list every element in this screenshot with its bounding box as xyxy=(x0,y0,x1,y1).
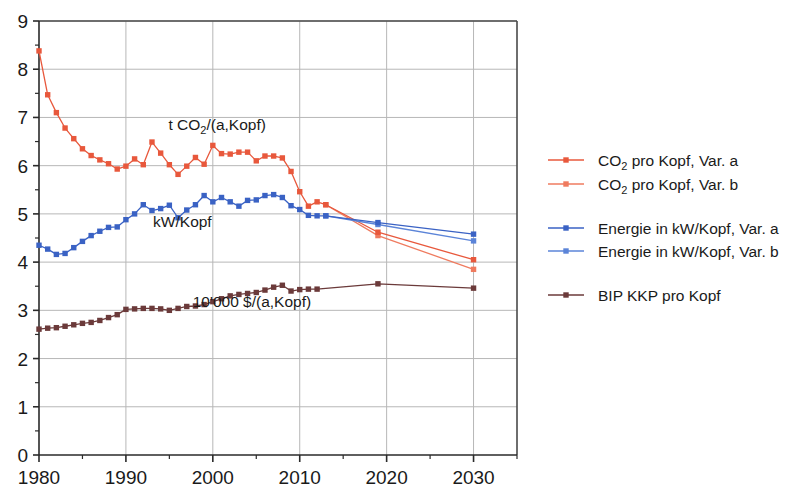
legend-label: BIP KKP pro Kopf xyxy=(598,287,721,304)
data-point-marker xyxy=(45,325,50,330)
series-line xyxy=(39,51,474,260)
data-point-marker xyxy=(280,195,285,200)
data-point-marker xyxy=(54,325,59,330)
data-point-marker xyxy=(236,149,241,154)
data-point-marker xyxy=(149,306,154,311)
data-point-marker xyxy=(36,48,41,53)
data-point-marker xyxy=(375,281,380,286)
legend-energie-var-a[interactable]: Energie in kW/Kopf, Var. a xyxy=(544,215,794,237)
data-point-marker xyxy=(97,318,102,323)
data-point-marker xyxy=(167,203,172,208)
y-axis: 0123456789 xyxy=(17,11,39,466)
data-point-marker xyxy=(210,199,215,204)
data-point-marker xyxy=(288,169,293,174)
data-point-marker xyxy=(323,213,328,218)
legend-marker-swatch xyxy=(563,181,568,186)
data-point-marker xyxy=(297,287,302,292)
data-point-marker xyxy=(132,156,137,161)
y-tick-label: 8 xyxy=(17,59,28,80)
data-point-marker xyxy=(88,320,93,325)
data-point-marker xyxy=(314,199,319,204)
y-tick-label: 4 xyxy=(17,252,28,273)
data-point-marker xyxy=(97,157,102,162)
x-tick-label: 2030 xyxy=(452,467,494,488)
legend-co2-var-a[interactable]: CO2 pro Kopf, Var. a xyxy=(544,147,794,172)
legend-bip[interactable]: BIP KKP pro Kopf xyxy=(544,282,794,304)
data-point-marker xyxy=(141,162,146,167)
data-point-marker xyxy=(271,192,276,197)
co2-annotation: t CO2/(a,Kopf) xyxy=(168,116,265,136)
data-point-marker xyxy=(471,231,476,236)
data-point-marker xyxy=(123,217,128,222)
data-point-marker xyxy=(106,225,111,230)
data-point-marker xyxy=(375,230,380,235)
y-tick-label: 2 xyxy=(17,349,28,370)
data-point-marker xyxy=(71,322,76,327)
data-point-marker xyxy=(71,136,76,141)
data-point-marker xyxy=(36,326,41,331)
data-point-marker xyxy=(149,208,154,213)
legend-marker-swatch xyxy=(563,157,568,162)
data-point-marker xyxy=(210,143,215,148)
data-point-marker xyxy=(115,224,120,229)
data-point-marker xyxy=(262,193,267,198)
legend-energie-var-b[interactable]: Energie in kW/Kopf, Var. b xyxy=(544,238,794,260)
data-point-marker xyxy=(175,306,180,311)
series-line xyxy=(326,216,474,241)
y-tick-label: 5 xyxy=(17,204,28,225)
data-point-marker xyxy=(45,246,50,251)
plot-annotations: t CO2/(a,Kopf)kW/Kopf10'000 $/(a,Kopf) xyxy=(153,116,311,311)
y-tick-label: 6 xyxy=(17,156,28,177)
energie-annotation: kW/Kopf xyxy=(153,213,212,230)
data-point-marker xyxy=(306,213,311,218)
chart-container: 0123456789198019902000201020202030t CO2/… xyxy=(0,0,811,489)
data-point-marker xyxy=(158,150,163,155)
data-point-marker xyxy=(54,110,59,115)
data-point-marker xyxy=(132,306,137,311)
data-point-marker xyxy=(106,161,111,166)
data-point-marker xyxy=(80,239,85,244)
data-point-marker xyxy=(123,307,128,312)
data-point-marker xyxy=(45,92,50,97)
y-tick-label: 7 xyxy=(17,107,28,128)
data-point-marker xyxy=(219,195,224,200)
data-point-marker xyxy=(158,306,163,311)
data-point-marker xyxy=(297,189,302,194)
y-tick-label: 9 xyxy=(17,11,28,32)
y-tick-label: 3 xyxy=(17,300,28,321)
series-layer xyxy=(36,48,476,332)
data-point-marker xyxy=(236,203,241,208)
bip-annotation: 10'000 $/(a,Kopf) xyxy=(193,293,311,310)
data-point-marker xyxy=(280,155,285,160)
plot-frame xyxy=(39,21,517,455)
data-point-marker xyxy=(97,229,102,234)
legend-co2-var-b[interactable]: CO2 pro Kopf, Var. b xyxy=(544,171,794,196)
data-point-marker xyxy=(193,155,198,160)
data-point-marker xyxy=(219,151,224,156)
data-point-marker xyxy=(123,163,128,168)
x-tick-label: 2020 xyxy=(365,467,407,488)
data-point-marker xyxy=(201,193,206,198)
data-point-marker xyxy=(471,257,476,262)
legend-marker-swatch xyxy=(563,225,568,230)
data-point-marker xyxy=(80,321,85,326)
data-point-marker xyxy=(254,158,259,163)
data-point-marker xyxy=(262,153,267,158)
x-tick-label: 2000 xyxy=(192,467,234,488)
data-point-marker xyxy=(254,197,259,202)
legend-marker-swatch xyxy=(563,292,568,297)
data-point-marker xyxy=(201,162,206,167)
data-point-marker xyxy=(62,324,67,329)
legend: CO2 pro Kopf, Var. aCO2 pro Kopf, Var. b… xyxy=(544,147,794,304)
data-point-marker xyxy=(141,202,146,207)
data-point-marker xyxy=(228,199,233,204)
data-point-marker xyxy=(36,243,41,248)
data-point-marker xyxy=(288,203,293,208)
gridlines xyxy=(39,21,517,455)
legend-marker-swatch xyxy=(563,248,568,253)
data-point-marker xyxy=(71,245,76,250)
data-point-marker xyxy=(184,304,189,309)
data-point-marker xyxy=(306,203,311,208)
data-point-marker xyxy=(167,308,172,313)
x-tick-label: 1990 xyxy=(105,467,147,488)
